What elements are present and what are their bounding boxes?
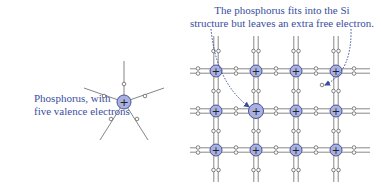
electron [217,168,221,172]
valence-electron [122,82,126,86]
positive-charge-icon: + [119,96,128,109]
positive-charge-icon: + [332,106,340,117]
positive-charge-icon: + [292,106,300,117]
positive-charge-icon: + [332,145,340,156]
electron [274,72,278,76]
electron [337,49,341,53]
electron [257,49,261,53]
electron [196,112,200,116]
electron [314,72,318,76]
free-electron [320,83,324,87]
electron [252,129,256,133]
electron [196,67,200,71]
silicon-atom: + [210,65,222,77]
valence-electron [109,117,113,121]
positive-charge-icon: + [212,106,220,117]
positive-charge-icon: + [292,66,300,77]
annotation-arrows [211,29,351,107]
electron [297,89,301,93]
silicon-atom: + [210,144,222,156]
electron [352,146,356,150]
valence-electron [143,94,147,98]
electron [337,89,341,93]
electron [352,112,356,116]
electron [332,49,336,53]
electron [274,112,278,116]
electron [337,168,341,172]
electron [196,146,200,150]
silicon-lattice-diagram: ++++++++++++ + [0,0,381,195]
electron [257,129,261,133]
positive-charge-icon: + [251,105,260,118]
electron [217,49,221,53]
electron [274,146,278,150]
positive-charge-icon: + [252,145,260,156]
electron [292,168,296,172]
electron [332,129,336,133]
electron [212,129,216,133]
electron [234,107,238,111]
electron [217,129,221,133]
electron [314,112,318,116]
electron [234,72,238,76]
electron [274,67,278,71]
electron [196,107,200,111]
electron [314,67,318,71]
electron [196,151,200,155]
positive-charge-icon: + [292,145,300,156]
silicon-atom: + [290,65,302,77]
silicon-atom: + [330,105,342,117]
electron [217,89,221,93]
electron [252,89,256,93]
electron [332,168,336,172]
electron [212,89,216,93]
electron [297,49,301,53]
electron [274,107,278,111]
silicon-atom: + [250,65,262,77]
electron [274,151,278,155]
silicon-atom: + [290,144,302,156]
electron [352,67,356,71]
electron [314,151,318,155]
electron [196,72,200,76]
silicon-atom: + [210,105,222,117]
valence-electron [135,117,139,121]
electron [332,89,336,93]
electron [257,168,261,172]
electron [252,168,256,172]
electron [314,107,318,111]
valence-electron [102,94,106,98]
lone-phosphorus-atom: + [84,61,164,140]
electron [234,67,238,71]
electron [314,146,318,150]
electron [234,146,238,150]
silicon-atom: + [250,144,262,156]
positive-charge-icon: + [212,66,220,77]
electron [352,107,356,111]
electron [257,89,261,93]
electron [252,49,256,53]
electron [234,112,238,116]
silicon-atom: + [330,144,342,156]
electron [352,151,356,155]
electron [297,129,301,133]
electron [337,129,341,133]
electron [352,72,356,76]
electron [292,49,296,53]
electron [212,168,216,172]
silicon-atom: + [330,65,342,77]
phosphorus-dopant-atom: + [249,104,264,119]
electron [234,151,238,155]
positive-charge-icon: + [212,145,220,156]
positive-charge-icon: + [252,66,260,77]
electron [297,168,301,172]
electron [292,89,296,93]
electron [292,129,296,133]
silicon-atom: + [290,105,302,117]
